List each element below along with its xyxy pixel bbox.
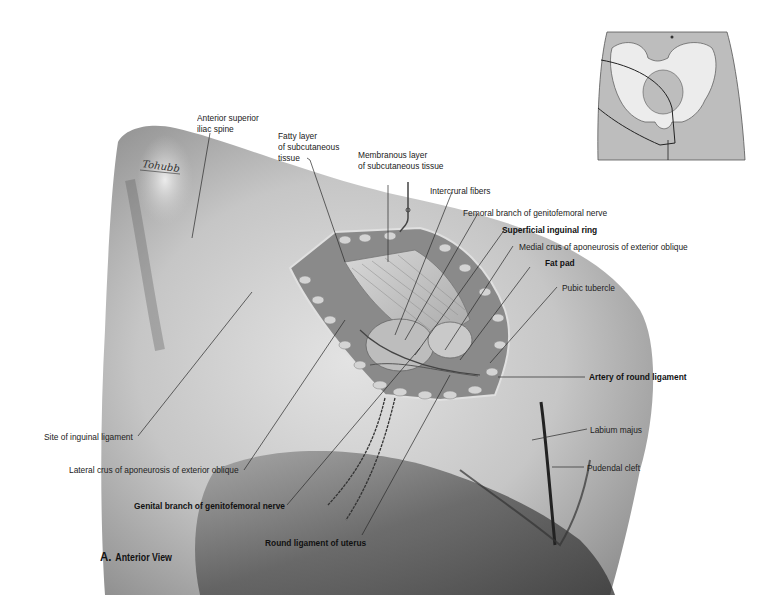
label-line: of subcutaneous tissue — [358, 160, 444, 171]
label-pudendal-cleft: Pudendal cleft — [587, 462, 640, 473]
inguinal-dissection-drawing: Tohubb — [0, 0, 776, 595]
label-line: Membranous layer — [358, 149, 444, 160]
label-text: Site of inguinal ligament — [44, 431, 133, 442]
label-superficial-inguinal-ring: Superficial inguinal ring — [502, 224, 597, 235]
figure-caption: A. Anterior View — [100, 547, 172, 565]
label-text: Artery of round ligament — [589, 371, 687, 382]
label-pubic-tubercle: Pubic tubercle — [562, 282, 615, 293]
label-round-ligament-of-uterus: Round ligament of uterus — [265, 537, 366, 548]
label-text: Intercrural fibers — [430, 185, 490, 196]
label-fatty-layer: Fatty layer of subcutaneous tissue — [278, 130, 339, 163]
label-text: Pubic tubercle — [562, 282, 615, 293]
label-text: Round ligament of uterus — [265, 537, 366, 548]
label-intercrural-fibers: Intercrural fibers — [430, 185, 490, 196]
label-text: Superficial inguinal ring — [502, 224, 597, 235]
anatomical-illustration: Tohubb — [0, 0, 776, 595]
label-genital-branch: Genital branch of genitofemoral nerve — [134, 500, 285, 511]
label-text: Femoral branch of genitofemoral nerve — [463, 207, 607, 218]
label-line: tissue — [278, 152, 339, 163]
label-line: of subcutaneous — [278, 141, 339, 152]
label-labium-majus: Labium majus — [590, 424, 642, 435]
label-text: Labium majus — [590, 424, 642, 435]
superficial-inguinal-ring-shape — [366, 319, 434, 371]
label-artery-of-round-ligament: Artery of round ligament — [589, 371, 687, 382]
label-lateral-crus: Lateral crus of aponeurosis of exterior … — [69, 464, 239, 475]
label-anterior-superior-iliac-spine: Anterior superior iliac spine — [197, 112, 259, 134]
label-medial-crus: Medial crus of aponeurosis of exterior o… — [519, 241, 688, 252]
label-text: Fat pad — [545, 257, 575, 268]
label-text: Pudendal cleft — [587, 462, 640, 473]
label-line: Fatty layer — [278, 130, 339, 141]
label-site-of-inguinal-ligament: Site of inguinal ligament — [44, 431, 133, 442]
label-line: Anterior superior — [197, 112, 259, 123]
label-line: iliac spine — [197, 123, 259, 134]
label-text: Lateral crus of aponeurosis of exterior … — [69, 464, 239, 475]
inset-orientation-diagram — [598, 32, 745, 160]
label-text: Genital branch of genitofemoral nerve — [134, 500, 285, 511]
caption-text: Anterior View — [115, 552, 172, 563]
label-membranous-layer: Membranous layer of subcutaneous tissue — [358, 149, 444, 171]
label-text: Medial crus of aponeurosis of exterior o… — [519, 241, 688, 252]
label-femoral-branch: Femoral branch of genitofemoral nerve — [463, 207, 607, 218]
label-fat-pad: Fat pad — [545, 257, 575, 268]
caption-letter: A. — [100, 549, 111, 564]
